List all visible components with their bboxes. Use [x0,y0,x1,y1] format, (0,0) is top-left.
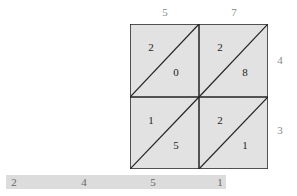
cell-1-1-tens: 2 [217,114,223,126]
result-digit-1: 2 [11,176,17,188]
cell-0-0-tens: 2 [148,41,154,53]
right-digit-2: 3 [277,124,283,136]
cell-0-1-ones: 8 [242,66,248,78]
top-digit-2: 7 [231,6,237,18]
cell-1-0-ones: 5 [173,139,179,151]
result-digit-4: 1 [217,176,223,188]
result-bar: 2 4 5 1 [6,175,226,189]
right-digit-1: 4 [277,54,283,66]
cell-0-0-ones: 0 [173,66,179,78]
top-digit-1: 5 [162,6,168,18]
cell-0-1-tens: 2 [217,41,223,53]
result-digit-2: 4 [81,176,87,188]
cell-1-0-tens: 1 [148,114,154,126]
cell-1-1-ones: 1 [242,139,248,151]
result-digit-3: 5 [150,176,156,188]
